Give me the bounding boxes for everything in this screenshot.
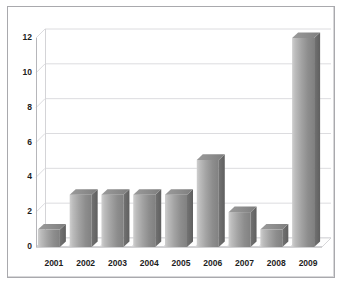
x-axis-tick-mark: [290, 238, 299, 247]
x-axis-tick-label: 2009: [288, 258, 328, 268]
y-axis-tick-label: 2: [27, 207, 32, 216]
y-axis-tick-label: 8: [27, 103, 32, 112]
y-axis-tick: 10: [0, 68, 32, 77]
x-axis-tick-mark: [195, 238, 204, 247]
chart-back-wall: [45, 29, 322, 238]
gridline: [36, 238, 331, 247]
chart-screenshot: 024681012 200120022003200420052006200720…: [0, 0, 342, 285]
x-axis-tick-mark: [227, 238, 236, 247]
y-axis-tick-label: 4: [27, 172, 32, 181]
y-axis-back-line: [45, 29, 46, 238]
x-axis-tick-mark: [322, 238, 331, 247]
plot-area: 024681012 200120022003200420052006200720…: [0, 0, 342, 285]
y-axis-tick: 8: [0, 103, 32, 112]
x-axis-tick-mark: [258, 238, 267, 247]
y-axis-tick-label: 6: [27, 138, 32, 147]
y-axis-tick: 6: [0, 138, 32, 147]
x-axis-tick-mark: [131, 238, 140, 247]
y-axis-line: [36, 38, 37, 247]
x-axis-tick-mark: [68, 238, 77, 247]
y-axis-tick-label: 0: [27, 242, 32, 251]
y-axis-tick-label: 12: [23, 33, 32, 42]
y-axis-tick: 2: [0, 207, 32, 216]
x-axis-tick-mark: [163, 238, 172, 247]
chart-floor: [36, 238, 331, 247]
y-axis-tick: 4: [0, 172, 32, 181]
y-axis-tick-label: 10: [23, 68, 32, 77]
y-axis-tick: 0: [0, 242, 32, 251]
y-axis-tick: 12: [0, 33, 32, 42]
x-axis-tick-mark: [100, 238, 109, 247]
